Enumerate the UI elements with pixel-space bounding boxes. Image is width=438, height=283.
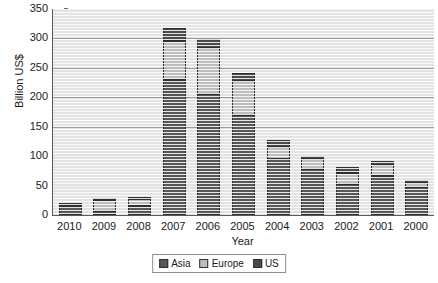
bar-segment-europe-2002[interactable] [336, 173, 359, 185]
bar-group-2001[interactable] [371, 161, 394, 215]
bar-segment-asia-2007[interactable] [163, 80, 186, 215]
bar-segment-asia-2003[interactable] [301, 169, 324, 215]
y-tick-label-300: 300 [30, 32, 48, 42]
x-tick-label-2003: 2003 [294, 219, 329, 233]
bar-segment-asia-2006[interactable] [197, 94, 220, 215]
x-tick-label-2007: 2007 [156, 219, 191, 233]
bar-segment-us-2002[interactable] [336, 167, 359, 173]
y-tick-label-50: 50 [36, 180, 48, 190]
y-tick-label-250: 250 [30, 62, 48, 72]
x-tick-label-2006: 2006 [191, 219, 226, 233]
bar-segment-asia-2005[interactable] [232, 115, 255, 215]
bar-segment-us-2006[interactable] [197, 39, 220, 48]
bar-segment-europe-2009[interactable] [93, 200, 116, 211]
bar-segment-us-2001[interactable] [371, 161, 394, 165]
legend-label-europe: Europe [212, 259, 244, 269]
bar-group-2010[interactable] [59, 204, 82, 215]
legend-swatch-us-icon [253, 259, 262, 268]
bar-group-2002[interactable] [336, 167, 359, 215]
chart-legend: AsiaEuropeUS [152, 254, 286, 273]
legend-label-asia: Asia [171, 259, 190, 269]
bar-group-2000[interactable] [405, 180, 428, 215]
bar-segment-europe-2001[interactable] [371, 165, 394, 176]
x-tick-label-2009: 2009 [87, 219, 122, 233]
x-tick-label-2005: 2005 [225, 219, 260, 233]
bar-segment-asia-2008[interactable] [128, 206, 151, 215]
bar-group-2005[interactable] [232, 73, 255, 215]
bar-group-2007[interactable] [163, 28, 186, 215]
x-tick-label-2002: 2002 [329, 219, 364, 233]
y-axis-tick-labels: 050100150200250300350 [16, 8, 48, 215]
y-tick-label-100: 100 [30, 150, 48, 160]
bar-group-2006[interactable] [197, 39, 220, 215]
bar-segment-us-2005[interactable] [232, 73, 255, 81]
legend-item-asia[interactable]: Asia [159, 259, 190, 269]
x-tick-label-2008: 2008 [121, 219, 156, 233]
y-tick-label-350: 350 [30, 3, 48, 13]
bar-group-2003[interactable] [301, 156, 324, 215]
bar-segment-us-2008[interactable] [128, 197, 151, 199]
x-axis-tick-labels: 2010200920082007200620052004200320022001… [52, 219, 433, 233]
bar-segment-europe-2007[interactable] [163, 41, 186, 79]
bar-segment-europe-2006[interactable] [197, 48, 220, 94]
bar-segment-asia-2000[interactable] [405, 187, 428, 215]
plot-area [52, 9, 434, 216]
bar-series-container [53, 9, 434, 215]
bar-segment-us-2010[interactable] [59, 203, 82, 205]
bar-segment-us-2003[interactable] [301, 156, 324, 159]
bar-segment-asia-2009[interactable] [93, 211, 116, 215]
x-tick-label-2000: 2000 [398, 219, 433, 233]
bar-group-2008[interactable] [128, 197, 151, 215]
bar-segment-europe-2000[interactable] [405, 183, 428, 188]
legend-item-us[interactable]: US [253, 259, 279, 269]
x-axis-title: Year [52, 235, 433, 247]
bar-segment-us-2000[interactable] [405, 180, 428, 182]
bar-segment-asia-2001[interactable] [371, 176, 394, 215]
y-tick-label-0: 0 [42, 209, 48, 219]
legend-label-us: US [265, 259, 279, 269]
bar-segment-europe-2010[interactable] [59, 205, 82, 207]
bar-segment-asia-2004[interactable] [267, 159, 290, 215]
stacked-bar-chart: Billion US$ 050100150200250300350 201020… [0, 0, 438, 283]
bar-segment-europe-2008[interactable] [128, 199, 151, 205]
bar-group-2004[interactable] [267, 140, 290, 215]
x-tick-label-2010: 2010 [52, 219, 87, 233]
legend-swatch-asia-icon [159, 259, 168, 268]
legend-swatch-europe-icon [200, 259, 209, 268]
bar-segment-europe-2005[interactable] [232, 81, 255, 115]
y-tick-label-150: 150 [30, 121, 48, 131]
bar-segment-europe-2003[interactable] [301, 159, 324, 169]
y-tick-label-200: 200 [30, 91, 48, 101]
bar-segment-asia-2002[interactable] [336, 184, 359, 215]
x-tick-label-2004: 2004 [260, 219, 295, 233]
bar-segment-us-2009[interactable] [93, 198, 116, 200]
bar-segment-us-2004[interactable] [267, 140, 290, 147]
bar-segment-us-2007[interactable] [163, 28, 186, 41]
bar-segment-europe-2004[interactable] [267, 147, 290, 159]
legend-item-europe[interactable]: Europe [200, 259, 244, 269]
x-tick-label-2001: 2001 [364, 219, 399, 233]
bar-segment-asia-2010[interactable] [59, 207, 82, 215]
bar-group-2009[interactable] [93, 199, 116, 215]
